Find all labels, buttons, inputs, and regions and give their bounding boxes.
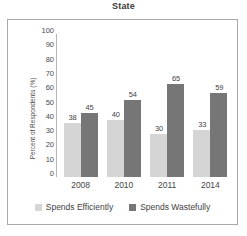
bar[interactable] bbox=[81, 113, 98, 177]
chart-frame: Percent of Respondents (%) 1009080706050… bbox=[7, 19, 238, 225]
y-axis-tick-label: 0 bbox=[26, 170, 54, 178]
y-axis-tick-label: 30 bbox=[26, 127, 54, 135]
x-axis-tick-label: 2008 bbox=[61, 180, 101, 190]
y-axis-tick-label: 40 bbox=[26, 113, 54, 121]
bar-group: 3065 bbox=[150, 34, 184, 177]
bar-value-label: 65 bbox=[163, 75, 189, 83]
bar[interactable] bbox=[150, 134, 167, 177]
y-axis-tick-label: 60 bbox=[26, 84, 54, 92]
legend-item[interactable]: Spends Wastefully bbox=[129, 202, 210, 212]
bar[interactable] bbox=[124, 100, 141, 177]
y-axis-tick-label: 90 bbox=[26, 41, 54, 49]
bar[interactable] bbox=[167, 84, 184, 177]
plot-area: 3845405430653359 bbox=[56, 34, 229, 177]
bar-group: 4054 bbox=[107, 34, 141, 177]
bar-value-label: 45 bbox=[77, 104, 103, 112]
bar-group: 3845 bbox=[64, 34, 98, 177]
y-axis-tick-label: 50 bbox=[26, 99, 54, 107]
legend-swatch-icon bbox=[35, 204, 42, 211]
x-axis-tick-label: 2014 bbox=[190, 180, 230, 190]
bar[interactable] bbox=[210, 93, 227, 177]
y-axis-tick-label: 20 bbox=[26, 141, 54, 149]
bar-value-label: 54 bbox=[120, 91, 146, 99]
chart-title: State bbox=[0, 1, 247, 11]
y-axis-tick-labels: 1009080706050403020100 bbox=[26, 31, 54, 174]
y-axis-line bbox=[56, 34, 57, 177]
legend-swatch-icon bbox=[129, 204, 136, 211]
y-axis-tick-label: 70 bbox=[26, 70, 54, 78]
bar[interactable] bbox=[64, 123, 81, 177]
chart-legend: Spends EfficientlySpends Wastefully bbox=[8, 202, 237, 212]
x-axis-tick-label: 2011 bbox=[147, 180, 187, 190]
legend-label: Spends Efficiently bbox=[46, 202, 113, 212]
bar-group: 3359 bbox=[193, 34, 227, 177]
x-axis-tick-labels: 2008201020112014 bbox=[56, 180, 229, 194]
y-axis-tick-label: 100 bbox=[26, 27, 54, 35]
y-axis-tick-label: 80 bbox=[26, 56, 54, 64]
bar[interactable] bbox=[193, 130, 210, 177]
x-axis-tick-label: 2010 bbox=[104, 180, 144, 190]
bar-value-label: 59 bbox=[206, 84, 232, 92]
y-axis-tick-label: 10 bbox=[26, 156, 54, 164]
bottom-caption-fragment bbox=[4, 227, 247, 236]
bar[interactable] bbox=[107, 120, 124, 177]
legend-label: Spends Wastefully bbox=[140, 202, 210, 212]
legend-item[interactable]: Spends Efficiently bbox=[35, 202, 113, 212]
